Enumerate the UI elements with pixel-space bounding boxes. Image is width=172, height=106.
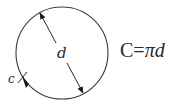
circumference-arrow-icon xyxy=(22,76,29,88)
formula-lhs: C xyxy=(120,39,133,61)
diameter-label: d xyxy=(57,44,67,62)
circumference-label: c xyxy=(8,72,15,86)
diameter-arrow-lower xyxy=(67,63,83,93)
circumference-formula: C=πd xyxy=(120,39,165,62)
formula-var: d xyxy=(155,39,165,61)
formula-pi: π xyxy=(145,39,155,61)
diameter-arrow-upper xyxy=(40,13,56,43)
formula-equals: = xyxy=(133,39,144,61)
